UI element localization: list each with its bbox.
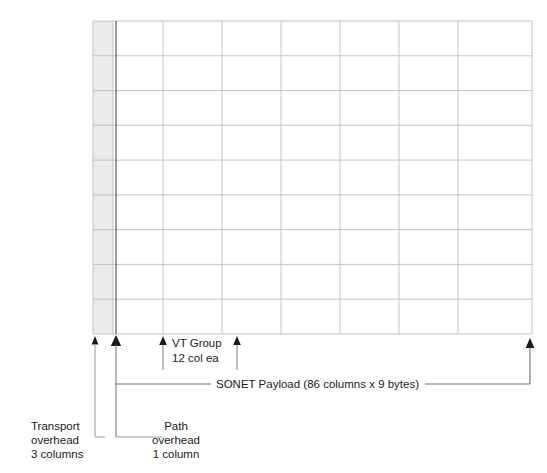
transport-overhead-label-line3: 3 columns [31,447,83,461]
transport-overhead-label-line2: overhead [31,433,79,447]
transport-overhead-label-line1: Transport [31,419,80,433]
grid-column-lines [93,21,532,334]
sonet-payload-arrow [526,338,535,348]
diagram-vector-layer [0,0,547,473]
path-overhead-label-line2: overhead [136,433,216,447]
path-overhead-label-line3: 1 column [136,447,216,461]
transport-overhead-shading [93,21,113,334]
path-overhead-label-line1: Path [136,419,216,433]
vt-group-arrow-left [159,336,167,370]
vt-group-arrow-right [233,336,241,370]
sonet-payload-label: SONET Payload (86 columns x 9 bytes) [216,377,419,391]
vt-group-label-line1: VT Group [172,336,222,350]
grid-row-lines [93,21,532,334]
transport-overhead-leader [92,336,105,437]
vt-group-label-line2: 12 col ea [172,351,219,365]
sonet-frame-diagram: VT Group 12 col ea SONET Payload (86 col… [0,0,547,473]
